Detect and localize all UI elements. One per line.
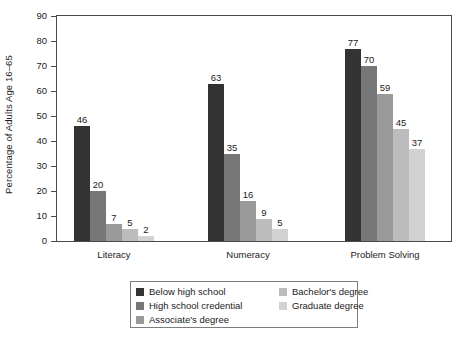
legend-item[interactable]: Below high school [136, 286, 269, 298]
bars-layer: 4620752633516957770594537 [57, 16, 451, 241]
bar-value-label: 5 [277, 217, 282, 228]
legend-item[interactable]: Bachelor's degree [279, 286, 359, 298]
y-axis-tick-label: 0 [42, 234, 47, 247]
bar-value-label: 9 [261, 207, 266, 218]
legend-label: Associate's degree [149, 314, 229, 326]
y-axis-tick-label: 20 [36, 184, 47, 197]
bar-value-label: 5 [127, 217, 132, 228]
bar[interactable]: 7 [106, 224, 122, 242]
bar[interactable]: 63 [208, 84, 224, 242]
legend-item[interactable]: High school credential [136, 300, 269, 312]
bar-value-label: 20 [93, 179, 104, 190]
bar-value-label: 77 [348, 37, 359, 48]
x-axis-label: Numeracy [188, 249, 308, 260]
legend-swatch [136, 302, 144, 310]
y-axis-tick-label: 60 [36, 84, 47, 97]
legend-label: Below high school [149, 286, 226, 298]
y-axis-tick-label: 30 [36, 159, 47, 172]
bar[interactable]: 5 [122, 229, 138, 242]
legend-item[interactable]: Associate's degree [136, 314, 269, 326]
legend-label: Bachelor's degree [292, 286, 368, 298]
legend-column: Below high schoolHigh school credentialA… [136, 286, 269, 326]
bar-value-label: 46 [77, 114, 88, 125]
x-axis-label: Literacy [54, 249, 174, 260]
bar-value-label: 45 [396, 117, 407, 128]
y-axis-tick-label: 50 [36, 109, 47, 122]
bar[interactable]: 77 [345, 49, 361, 242]
legend-swatch [136, 288, 144, 296]
y-axis-title: Percentage of Adults Age 16–65 [0, 0, 16, 248]
chart-legend: Below high schoolHigh school credentialA… [130, 281, 358, 328]
legend-swatch [279, 302, 287, 310]
legend-column: Bachelor's degreeGraduate degree [279, 286, 359, 326]
x-axis-label: Problem Solving [325, 249, 445, 260]
bar[interactable]: 70 [361, 66, 377, 241]
y-axis-title-text: Percentage of Adults Age 16–65 [3, 55, 14, 194]
bar[interactable]: 16 [240, 201, 256, 241]
y-axis-tick-label: 90 [36, 9, 47, 22]
legend-swatch [136, 316, 144, 324]
bar[interactable]: 46 [74, 126, 90, 241]
bar[interactable]: 59 [377, 94, 393, 242]
y-axis-tick-label: 40 [36, 134, 47, 147]
bar[interactable]: 45 [393, 129, 409, 242]
legend-swatch [279, 288, 287, 296]
bar[interactable]: 37 [409, 149, 425, 242]
bar-value-label: 70 [364, 54, 375, 65]
legend-columns: Below high schoolHigh school credentialA… [136, 286, 359, 326]
bar-group-problem-solving: 7770594537 [345, 16, 425, 241]
bar-group-literacy: 4620752 [74, 16, 154, 241]
legend-label: High school credential [149, 300, 242, 312]
y-axis-tick-label: 70 [36, 59, 47, 72]
bar[interactable]: 20 [90, 191, 106, 241]
bar-value-label: 35 [227, 142, 238, 153]
legend-label: Graduate degree [292, 300, 364, 312]
y-axis-tick-label: 80 [36, 34, 47, 47]
bar-value-label: 7 [111, 212, 116, 223]
bar-value-label: 59 [380, 82, 391, 93]
bar-value-label: 2 [143, 224, 148, 235]
y-axis-tick-label: 10 [36, 209, 47, 222]
bar-value-label: 37 [412, 137, 423, 148]
legend-item[interactable]: Graduate degree [279, 300, 359, 312]
bar[interactable]: 9 [256, 219, 272, 242]
bar-value-label: 63 [211, 72, 222, 83]
bar[interactable]: 2 [138, 236, 154, 241]
bar[interactable]: 5 [272, 229, 288, 242]
bar-group-numeracy: 63351695 [208, 16, 288, 241]
bar[interactable]: 35 [224, 154, 240, 242]
bar-value-label: 16 [243, 189, 254, 200]
